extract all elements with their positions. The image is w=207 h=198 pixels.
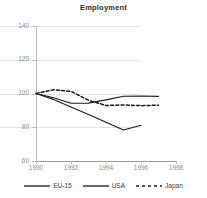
legend-label-japan: Japan <box>165 183 183 190</box>
legend-item-eu-15: EU-15 <box>24 183 71 190</box>
x-axis-label-1996: 1996 <box>126 165 156 172</box>
series-line-usa <box>36 94 141 130</box>
legend-label-usa: USA <box>112 183 125 190</box>
y-axis-label-120: 120 <box>5 56 29 63</box>
x-axis-label-1994: 1994 <box>91 165 121 172</box>
legend-swatch-solid-icon <box>24 183 50 189</box>
legend-swatch-solid-icon <box>83 183 109 189</box>
employment-line-chart: Employment 140 120 100 80 60 1990 1992 1… <box>0 0 207 198</box>
series-line-eu-15 <box>36 94 159 104</box>
series-canvas <box>36 26 176 161</box>
y-axis-label-60: 60 <box>5 158 29 165</box>
y-axis-label-100: 100 <box>5 90 29 97</box>
plot-area <box>36 26 176 161</box>
x-axis-label-1992: 1992 <box>56 165 86 172</box>
chart-legend: EU-15 USA Japan <box>0 183 207 190</box>
legend-item-japan: Japan <box>136 183 183 190</box>
y-axis-label-80: 80 <box>5 124 29 131</box>
x-axis-label-1998: 1998 <box>161 165 191 172</box>
legend-label-eu-15: EU-15 <box>53 183 71 190</box>
x-axis-label-1990: 1990 <box>21 165 51 172</box>
legend-item-usa: USA <box>83 183 125 190</box>
legend-swatch-dashed-icon <box>136 183 162 189</box>
chart-title: Employment <box>0 3 207 12</box>
y-axis-label-140: 140 <box>5 23 29 30</box>
